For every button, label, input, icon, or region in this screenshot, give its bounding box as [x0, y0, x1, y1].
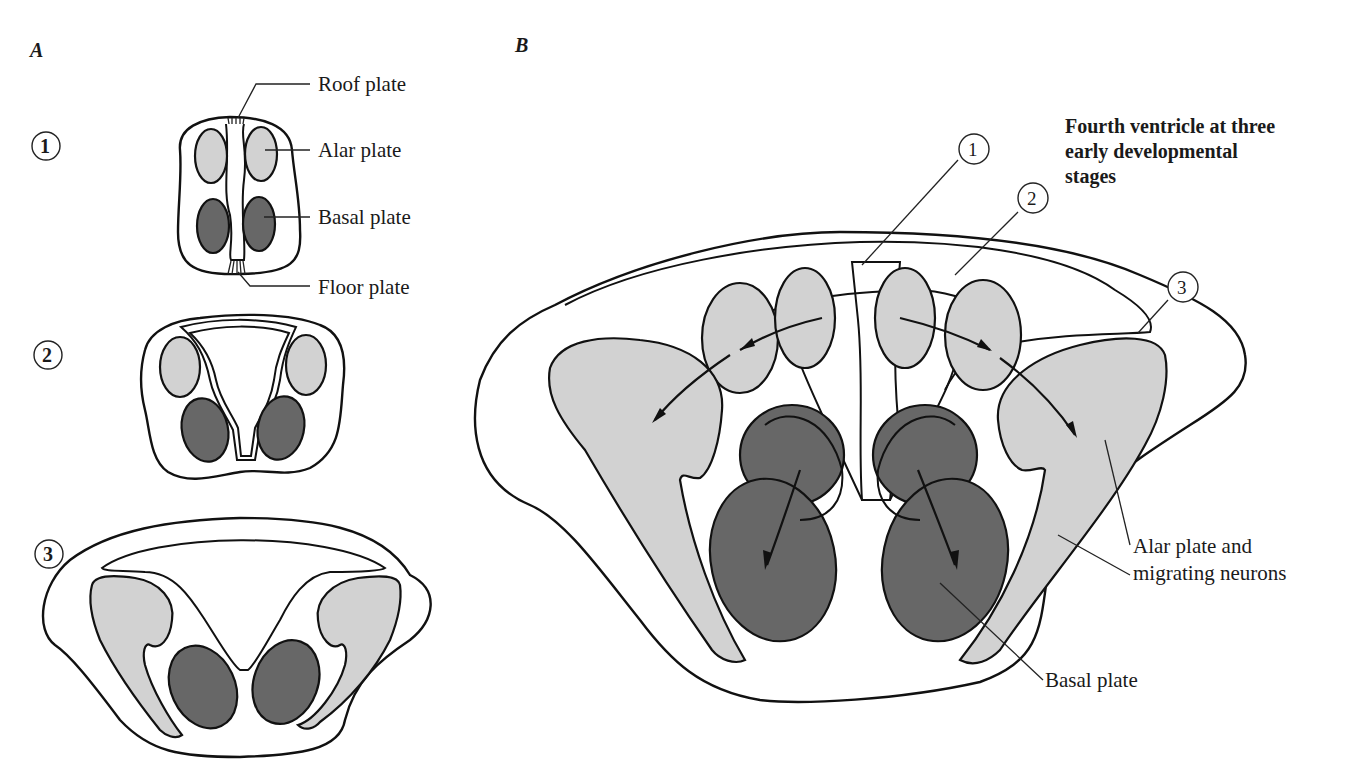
stage-2-number: 2 [42, 344, 52, 366]
basal-plate-left-1 [197, 199, 229, 253]
alar-migrating-label-line-1: Alar plate and [1133, 534, 1252, 558]
stage-marker-1: 1 [968, 139, 978, 160]
stage-marker-3: 3 [1177, 277, 1187, 298]
floor-plate-label: Floor plate [318, 275, 410, 299]
stage-a1-section: 1 Roof plate Alar plate Basal plate Floo… [32, 72, 411, 299]
panel-letter-b: B [514, 34, 528, 56]
basal-plate-label-b: Basal plate [1045, 668, 1138, 692]
stage-a3-section: 3 [35, 518, 431, 757]
panel-b-title-line-3: stages [1065, 165, 1116, 188]
stage-3-number: 3 [43, 543, 53, 565]
panel-b-title: Fourth ventricle at three early developm… [1065, 115, 1275, 188]
alar-plate-b-right-inner [875, 268, 935, 368]
alar-migrating-label-line-2: migrating neurons [1133, 561, 1286, 585]
stage-marker-2: 2 [1027, 188, 1037, 209]
neural-tube-outline-1 [178, 117, 300, 274]
alar-plate-right-2 [286, 335, 326, 395]
basal-plate-right-1 [243, 197, 275, 251]
panel-b-title-line-2: early developmental [1065, 140, 1238, 163]
roof-plate-label: Roof plate [318, 72, 406, 96]
panel-b-title-line-1: Fourth ventricle at three [1065, 115, 1275, 137]
stage-1-number: 1 [40, 135, 50, 157]
alar-plate-b-left-inner [775, 268, 835, 368]
alar-plate-left-2 [160, 337, 200, 397]
figure-canvas: A 1 Roof plate Alar plate Basal plate Fl… [0, 0, 1350, 773]
fourth-ventricle-composite: 1 2 3 Alar plate and migrating neurons B… [475, 134, 1286, 702]
roof-plate-leader [238, 84, 310, 118]
panel-letter-a: A [28, 39, 43, 61]
alar-plate-left-1 [195, 129, 227, 183]
basal-plate-label-a: Basal plate [318, 205, 411, 229]
alar-plate-right-1 [245, 127, 277, 181]
alar-plate-label-a: Alar plate [318, 138, 401, 162]
stage-a2-section: 2 [34, 315, 344, 479]
